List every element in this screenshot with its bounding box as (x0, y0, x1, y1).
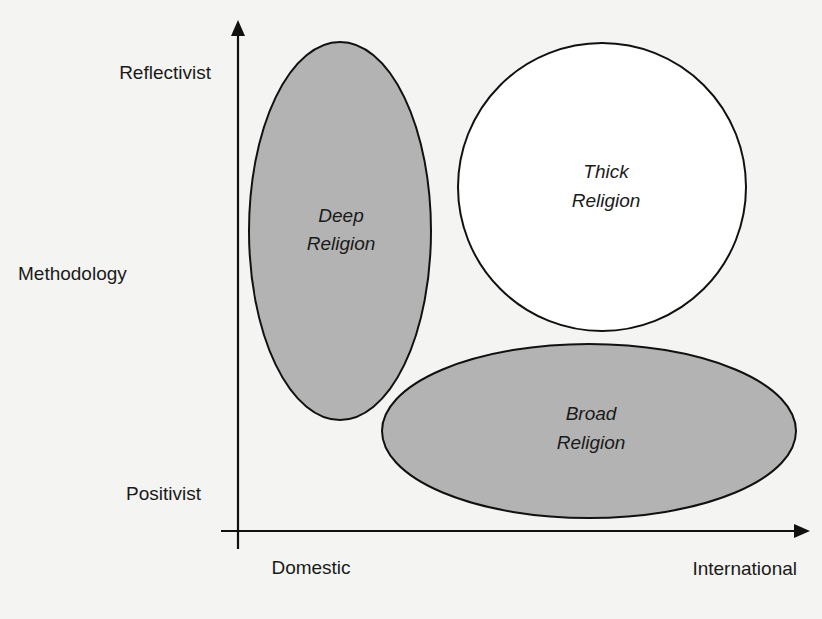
thick-religion-label-line1: Thick (583, 161, 630, 182)
deep-religion-label-line2: Religion (307, 233, 376, 254)
broad-religion-label-line2: Religion (557, 432, 626, 453)
y-axis-arrowhead (231, 20, 245, 36)
y-axis-bottom-label: Positivist (126, 483, 202, 504)
thick-religion-label-line2: Religion (572, 190, 641, 211)
x-axis-arrowhead (794, 524, 810, 538)
deep-religion-label-line1: Deep (318, 205, 363, 226)
x-axis-right-label: International (692, 558, 797, 579)
diagram-canvas: Deep Religion Thick Religion Broad Relig… (0, 0, 822, 619)
broad-religion-ellipse (382, 344, 796, 518)
x-axis-left-label: Domestic (271, 557, 350, 578)
y-axis-top-label: Reflectivist (119, 62, 212, 83)
thick-religion-circle (458, 43, 746, 331)
deep-religion-ellipse (249, 42, 431, 420)
broad-religion-label-line1: Broad (566, 403, 618, 424)
y-axis-title: Methodology (18, 263, 127, 284)
